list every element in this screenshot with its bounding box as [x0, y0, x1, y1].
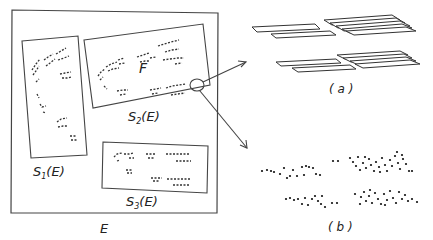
label-b: ( b )	[328, 220, 353, 234]
label-s3: S3(E)	[126, 194, 158, 211]
label-s1: S1(E)	[33, 164, 65, 181]
fractal-diagram: E S1(E)	[0, 0, 433, 240]
s3-box	[102, 142, 208, 193]
panel-a-slabs	[252, 15, 420, 72]
outer-set-e-box	[11, 10, 218, 213]
arrow-to-a	[203, 61, 246, 82]
s1-fractal-marks	[32, 48, 77, 140]
label-f: F	[139, 60, 148, 76]
magnify-circle	[190, 79, 204, 91]
label-e: E	[100, 221, 109, 236]
s1-box	[22, 36, 87, 158]
label-a: ( a )	[329, 82, 353, 96]
label-s2: S2(E)	[128, 109, 160, 126]
arrow-to-b	[200, 91, 247, 148]
s3-fractal-marks	[114, 153, 191, 185]
panel-b-dots	[261, 151, 418, 208]
